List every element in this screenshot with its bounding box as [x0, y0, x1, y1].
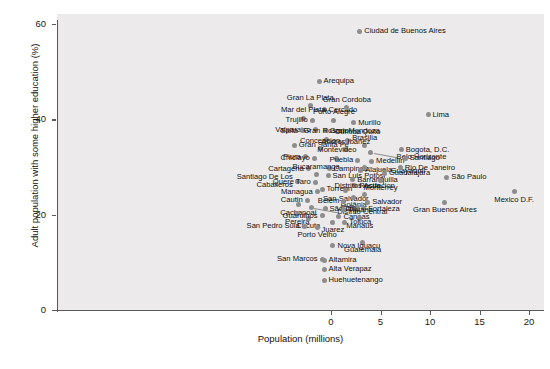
x-tick-label: 20 — [514, 316, 544, 327]
y-tick-mark — [52, 310, 56, 311]
data-point[interactable] — [302, 224, 307, 229]
data-point[interactable] — [369, 159, 374, 164]
x-tick-mark — [480, 311, 481, 315]
data-point[interactable] — [322, 267, 327, 272]
y-tick-mark — [52, 215, 56, 216]
data-point-label: San Pedro Sula — [247, 222, 300, 230]
data-point-label: Gran Cordoba — [323, 96, 371, 104]
data-point-label: Arequipa — [324, 77, 354, 85]
x-tick-mark — [430, 311, 431, 315]
data-point[interactable] — [305, 198, 310, 203]
x-axis-title: Population (millions) — [57, 333, 544, 344]
x-tick-label: 5 — [366, 316, 396, 327]
data-point-label: Salta — [280, 127, 297, 135]
x-tick-mark — [529, 311, 530, 315]
scatter-chart-figure: 020406005101520 Ciudad de Buenos AiresAr… — [0, 0, 550, 369]
data-point-label: Bucaramanga — [293, 163, 340, 171]
data-point[interactable] — [313, 180, 318, 185]
data-point[interactable] — [312, 156, 317, 161]
data-point[interactable] — [426, 112, 431, 117]
data-point[interactable] — [315, 189, 320, 194]
data-point[interactable] — [326, 173, 331, 178]
x-tick-label: 15 — [465, 316, 495, 327]
data-point[interactable] — [362, 192, 367, 197]
data-point-label: Gran Buenos Aires — [413, 206, 477, 214]
y-tick-mark — [52, 24, 56, 25]
data-point[interactable] — [296, 202, 301, 207]
data-point-label: Rio De Janeiro — [405, 164, 455, 172]
x-tick-label: 0 — [316, 316, 346, 327]
x-axis-line — [56, 310, 544, 311]
data-point[interactable] — [403, 156, 408, 161]
data-point-label: Toluca — [349, 218, 371, 226]
data-point-label: Guarulhos — [283, 212, 318, 220]
data-point-label: Huehuetenango — [329, 276, 383, 284]
x-tick-mark — [381, 311, 382, 315]
data-point-label: Nova Iguaçu — [337, 242, 380, 250]
data-point-label: Mexico D.F. — [494, 196, 534, 204]
y-tick-mark — [52, 119, 56, 120]
data-point[interactable] — [357, 29, 362, 34]
x-tick-label: 10 — [415, 316, 445, 327]
data-point[interactable] — [322, 258, 327, 263]
data-point-label: Lima — [433, 111, 449, 119]
y-axis-line — [57, 20, 58, 312]
y-axis-title: Adult population with some higher educat… — [29, 16, 40, 276]
data-point-label: Ciudad de Buenos Aires — [364, 27, 445, 35]
data-point[interactable] — [512, 189, 517, 194]
data-point-label: Quere Taro — [273, 178, 311, 186]
data-point[interactable] — [314, 172, 319, 177]
data-point-label: Distritos Asuncion — [334, 182, 394, 190]
data-point[interactable] — [292, 143, 297, 148]
data-point-label: Alta Verapaz — [329, 265, 372, 273]
data-point-label: Medellin — [376, 157, 404, 165]
data-point[interactable] — [320, 213, 325, 218]
data-point[interactable] — [310, 118, 315, 123]
data-point[interactable] — [351, 195, 356, 200]
data-point-label: Trujillo — [286, 116, 308, 124]
data-point[interactable] — [317, 79, 322, 84]
data-point-label: São Paulo — [451, 173, 486, 181]
data-point[interactable] — [315, 225, 320, 230]
data-point-label: Porto Alegre — [313, 108, 355, 116]
data-point-label: San Marcos — [277, 255, 318, 263]
data-point[interactable] — [320, 187, 325, 192]
y-tick-label: 0 — [0, 304, 46, 315]
data-point-label: Montevideo — [317, 146, 356, 154]
data-point-label: Santiago — [410, 154, 440, 162]
data-point-label: Porto Velho — [297, 231, 336, 239]
x-tick-mark — [331, 311, 332, 315]
data-point[interactable] — [322, 278, 327, 283]
